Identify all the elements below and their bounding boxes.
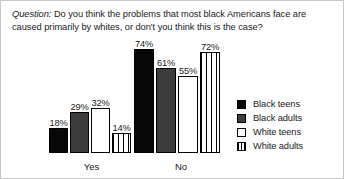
bar-slot: 32% <box>91 41 110 153</box>
legend-swatch-icon <box>237 128 246 137</box>
group-label-yes: Yes <box>49 161 134 172</box>
bar-value-label: 72% <box>201 42 219 52</box>
group-label-no: No <box>134 161 228 172</box>
bar-black-adults-no: 61% <box>156 68 176 153</box>
legend: Black teensBlack adultsWhite teensWhite … <box>237 97 341 153</box>
legend-item-label: White adults <box>253 141 303 151</box>
bar-slot: 61% <box>156 41 176 153</box>
legend-item-label: Black adults <box>253 113 302 123</box>
bar-black-teens-no: 74% <box>134 49 154 153</box>
bar-group-no-bars: 74%61%55%72% <box>134 41 228 153</box>
legend-item-black-adults[interactable]: Black adults <box>237 111 341 125</box>
bar-value-label: 18% <box>49 118 67 128</box>
bar-value-label: 29% <box>70 102 88 112</box>
question-body: Do you think the problems that most blac… <box>12 9 306 32</box>
legend-item-black-teens[interactable]: Black teens <box>237 97 341 111</box>
bar-value-label: 14% <box>112 123 130 133</box>
legend-item-label: White teens <box>253 127 301 137</box>
bar-black-adults-yes: 29% <box>70 112 89 153</box>
legend-swatch-icon <box>237 100 246 109</box>
legend-swatch-icon <box>237 142 246 151</box>
bar-black-teens-yes: 18% <box>49 128 68 153</box>
bar-slot: 14% <box>112 41 131 153</box>
survey-bar-chart-figure: Question: Do you think the problems that… <box>0 0 344 179</box>
bar-group-yes: 18%29%32%14% Yes <box>49 41 134 153</box>
bar-value-label: 74% <box>135 39 153 49</box>
legend-swatch-icon <box>237 114 246 123</box>
legend-item-white-teens[interactable]: White teens <box>237 125 341 139</box>
bar-white-adults-yes: 14% <box>112 133 131 153</box>
bar-slot: 55% <box>178 41 198 153</box>
bar-white-teens-yes: 32% <box>91 108 110 153</box>
bar-value-label: 55% <box>179 66 197 76</box>
bar-slot: 74% <box>134 41 154 153</box>
bar-slot: 18% <box>49 41 68 153</box>
bar-slot: 29% <box>70 41 89 153</box>
question-label: Question: <box>12 9 51 19</box>
bar-white-teens-no: 55% <box>178 76 198 153</box>
question-text: Question: Do you think the problems that… <box>12 8 334 34</box>
bar-value-label: 61% <box>157 58 175 68</box>
bar-white-adults-no: 72% <box>200 52 220 153</box>
bar-value-label: 32% <box>91 98 109 108</box>
legend-item-white-adults[interactable]: White adults <box>237 139 341 153</box>
legend-item-label: Black teens <box>253 99 300 109</box>
bar-slot: 72% <box>200 41 220 153</box>
bar-group-yes-bars: 18%29%32%14% <box>49 41 134 153</box>
bar-group-no: 74%61%55%72% No <box>134 41 228 153</box>
